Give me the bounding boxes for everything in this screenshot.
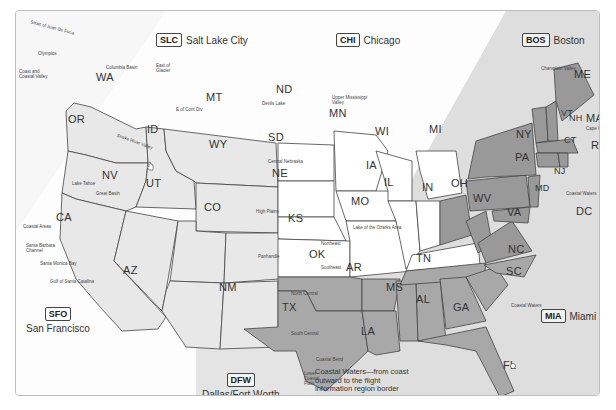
- state-label-ok: OK: [309, 248, 326, 260]
- state-label-tn: TN: [416, 252, 431, 264]
- region-code-chi: CHI: [336, 33, 360, 47]
- label-east-glacier: East of Glacier: [156, 63, 180, 73]
- state-label-ga: GA: [453, 301, 470, 313]
- state-label-ct: CT: [564, 135, 577, 145]
- state-label-pa: PA: [515, 151, 529, 163]
- label-panhandle: Panhandle: [258, 254, 280, 259]
- state-label-nh: NH: [569, 113, 583, 123]
- state-label-me: ME: [574, 68, 591, 80]
- state-label-ny: NY: [516, 128, 532, 140]
- label-upper-miss: Upper Mississippi Valley: [332, 95, 368, 105]
- region-label-sfo: SFO San Francisco: [26, 307, 90, 334]
- region-name-slc: Salt Lake City: [186, 35, 248, 46]
- state-label-oh: OH: [451, 177, 468, 189]
- state-label-wi: WI: [375, 125, 389, 137]
- label-southeast: Southeast: [321, 265, 341, 270]
- state-nh: [546, 101, 558, 141]
- region-code-bos: BOS: [522, 33, 550, 47]
- state-label-va: VA: [507, 206, 521, 218]
- label-olympics: Olympics: [38, 51, 57, 56]
- state-label-ks: KS: [288, 212, 303, 224]
- state-label-in: IN: [422, 181, 434, 193]
- state-label-nc: NC: [508, 243, 525, 255]
- region-name-chi: Chicago: [364, 35, 401, 46]
- state-label-sd: SD: [268, 131, 284, 143]
- state-label-mo: MO: [351, 195, 369, 207]
- coastal-waters-note: Coastal Waters—from coast outward to the…: [315, 368, 415, 394]
- label-coastal-waters-ne: Coastal Waters: [566, 191, 597, 196]
- region-code-dfw: DFW: [227, 373, 256, 387]
- region-label-slc: SLC Salt Lake City: [156, 33, 248, 47]
- label-santa-barbara: Santa Barbara Channel: [26, 243, 56, 253]
- state-az: [162, 281, 224, 349]
- state-label-il: IL: [384, 176, 394, 188]
- state-label-nv: NV: [102, 169, 118, 181]
- state-label-ca: CA: [56, 211, 72, 223]
- state-label-al: AL: [416, 293, 430, 305]
- us-map: [16, 11, 600, 396]
- region-name-mia: Miami: [570, 311, 597, 322]
- state-label-id: ID: [147, 123, 159, 135]
- label-east-div: E of Cont Div: [176, 107, 203, 112]
- state-label-nj: NJ: [554, 166, 566, 176]
- label-coastal-bend: Coastal Bend: [316, 357, 343, 362]
- region-code-sfo: SFO: [45, 307, 72, 321]
- hand-cursor-icon: [146, 161, 154, 171]
- pointer-cursor-icon: [510, 363, 518, 373]
- state-sd: [278, 181, 334, 217]
- state-label-ma: MA: [586, 112, 600, 124]
- label-north-central: North Central: [291, 291, 318, 296]
- region-name-dfw: Dallas/Fort Worth: [202, 389, 280, 396]
- state-label-ri: RI: [591, 139, 600, 151]
- state-label-ia: IA: [366, 159, 377, 171]
- label-champlain: Champlain Valley: [541, 66, 576, 71]
- region-code-mia: MIA: [541, 309, 566, 323]
- state-in: [416, 201, 440, 251]
- map-frame: SLC Salt Lake City CHI Chicago BOS Bosto…: [15, 10, 600, 396]
- label-lake-tahoe: Lake Tahoe: [72, 181, 95, 186]
- state-label-wy: WY: [209, 138, 227, 150]
- label-gulf-santa-catalina: Gulf of Santa Catalina: [50, 279, 94, 284]
- label-coastal-valley: Coast and Coastal Valley: [19, 69, 49, 79]
- state-label-co: CO: [204, 201, 221, 213]
- state-label-ms: MS: [386, 281, 403, 293]
- state-vt: [532, 107, 548, 143]
- label-lake-ozarks: Lake of the Ozarks Area: [353, 225, 401, 230]
- state-ri: [558, 153, 568, 167]
- label-high-plains: High Plains: [256, 209, 279, 214]
- label-columbia-basin: Columbia Basin: [106, 65, 138, 70]
- region-label-dfw: DFW Dallas/Fort Worth: [202, 373, 280, 396]
- region-name-bos: Boston: [554, 35, 585, 46]
- region-label-chi: CHI Chicago: [336, 33, 400, 47]
- state-label-ar: AR: [346, 261, 362, 273]
- label-northeast: Northeast: [321, 241, 341, 246]
- label-santa-monica: Santa Monica Bay: [40, 261, 77, 266]
- region-name-sfo: San Francisco: [26, 323, 90, 334]
- state-label-or: OR: [68, 113, 85, 125]
- state-label-ne: NE: [272, 167, 288, 179]
- label-coastal-waters-se: Coastal Waters: [511, 303, 542, 308]
- state-label-wv: WV: [473, 192, 491, 204]
- state-label-wa: WA: [96, 71, 114, 83]
- label-central-nebraska: Central Nebraska: [268, 159, 303, 164]
- state-label-mt: MT: [206, 91, 222, 103]
- state-label-nd: ND: [276, 83, 293, 95]
- label-devils-lake: Devils Lake: [262, 101, 285, 106]
- state-label-md: MD: [535, 183, 550, 193]
- state-label-dc: DC: [576, 205, 593, 217]
- label-great-basin: Great Basin: [96, 191, 120, 196]
- state-label-nm: NM: [219, 281, 237, 293]
- state-label-ut: UT: [146, 177, 161, 189]
- state-label-sc: SC: [506, 265, 522, 277]
- label-south-central: South Central: [291, 331, 319, 336]
- state-label-az: AZ: [123, 264, 138, 276]
- state-ct: [536, 153, 560, 167]
- region-label-mia: MIA Miami: [541, 309, 596, 323]
- region-label-bos: BOS Boston: [522, 33, 585, 47]
- state-label-mi: MI: [429, 123, 442, 135]
- state-label-tx: TX: [282, 301, 297, 313]
- region-code-slc: SLC: [156, 33, 182, 47]
- label-cape-cod: Cape Cod: [586, 126, 600, 131]
- state-label-mn: MN: [329, 107, 347, 119]
- label-coastal-areas: Coastal Areas: [23, 224, 51, 229]
